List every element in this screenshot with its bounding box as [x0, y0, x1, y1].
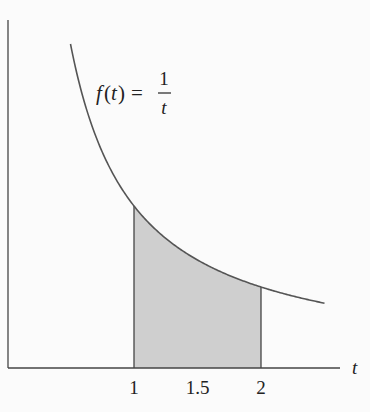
- function-label-paren-close: ): [118, 81, 125, 105]
- function-label-t: t: [111, 81, 118, 105]
- x-tick-label: 1.5: [186, 377, 210, 398]
- fraction-numerator: 1: [159, 68, 169, 89]
- shaded-area: [134, 206, 261, 368]
- plot-area: f ( t ) = 1 t 1 1.5 2 t: [0, 0, 370, 412]
- x-tick-label: 2: [256, 377, 266, 398]
- function-label-equals: =: [131, 81, 143, 105]
- x-tick-label: 1: [129, 377, 139, 398]
- fraction-denominator: t: [161, 97, 167, 118]
- chart: f ( t ) = 1 t 1 1.5 2 t: [0, 0, 370, 412]
- x-axis-label: t: [352, 357, 358, 378]
- function-label-paren: (: [104, 81, 111, 105]
